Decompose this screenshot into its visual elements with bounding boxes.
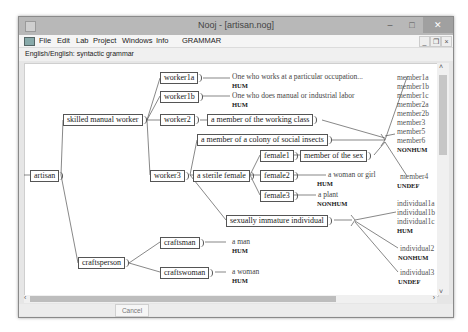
menu-bar: File Edit Lab Project Windows Info GRAMM… [19, 35, 453, 48]
tag-member4: UNDEF [397, 182, 419, 189]
leaf-member2a: member2a [397, 100, 429, 109]
node-working-class[interactable]: a member of the working class [207, 114, 313, 126]
bottom-bar: Cancel [19, 304, 453, 316]
menu-info[interactable]: Info [156, 36, 169, 45]
tag-craftswoman: HUM [232, 277, 248, 284]
maximize-button[interactable]: □ [401, 17, 423, 33]
node-female1[interactable]: female1 [260, 150, 294, 162]
tag-female2: HUM [317, 180, 333, 187]
scroll-up-icon[interactable]: ˄ [439, 63, 443, 70]
leaf-member6: member6 [397, 136, 425, 145]
leaf-member3: member3 [397, 118, 425, 127]
mdi-close-button[interactable]: × [441, 36, 452, 47]
menu-project[interactable]: Project [93, 36, 116, 45]
node-artisan[interactable]: artisan [30, 170, 59, 182]
gloss-worker1b: One who does manual or industrial labor [232, 91, 354, 100]
leaf-individual2: individual2 [400, 244, 434, 253]
leaf-individual3: individual3 [400, 268, 434, 277]
vertical-scrollbar[interactable]: ˄ ˅ [437, 63, 449, 295]
node-craftsperson[interactable]: craftsperson [78, 257, 125, 269]
node-sexually-immature[interactable]: sexually immature individual [226, 215, 328, 227]
leaf-member1b: member1b [397, 82, 429, 91]
leaf-member4: member4 [400, 172, 428, 181]
tag-worker1b: HUM [232, 101, 248, 108]
tag-individual3: UNDEF [398, 278, 420, 285]
title-bar[interactable]: Nooj - [artisan.nog] – □ ✕ [19, 17, 453, 35]
grammar-header: English/English: syntactic grammar [19, 48, 453, 61]
menu-lab[interactable]: Lab [76, 36, 89, 45]
node-member-of-sex[interactable]: member of the sex [300, 150, 367, 162]
node-worker1a[interactable]: worker1a [160, 72, 198, 84]
horizontal-scrollbar[interactable]: ‹ › [24, 295, 437, 303]
tag-member-group: NONHUM [397, 146, 427, 153]
node-skilled-manual-worker[interactable]: skilled manual worker [63, 114, 143, 126]
leaf-individual1b: individual1b [397, 208, 435, 217]
menu-edit[interactable]: Edit [57, 36, 70, 45]
grammar-label: English/English: syntactic grammar [25, 50, 134, 57]
leaf-member1c: member1c [397, 91, 429, 100]
scroll-right-icon[interactable]: › [433, 294, 435, 301]
node-sterile-female[interactable]: a sterile female [193, 170, 250, 182]
gloss-craftswoman: a woman [232, 267, 259, 276]
tag-individual-group: HUM [397, 227, 413, 234]
document-icon[interactable] [24, 37, 35, 46]
leaf-member2b: member2b [397, 109, 429, 118]
node-worker3[interactable]: worker3 [150, 170, 185, 182]
leaf-individual1c: individual1c [397, 217, 435, 226]
node-craftswoman[interactable]: craftswoman [160, 267, 209, 279]
horizontal-scroll-thumb[interactable] [30, 296, 336, 302]
mdi-restore-button[interactable]: ❐ [430, 36, 441, 47]
gloss-female2: a woman or girl [328, 170, 376, 179]
node-colony-member[interactable]: a member of a colony of social insects [197, 134, 328, 146]
node-worker2[interactable]: worker2 [160, 114, 195, 126]
gloss-female3: a plant [318, 190, 338, 199]
cancel-button[interactable]: Cancel [115, 304, 149, 317]
mdi-minimize-button[interactable]: _ [419, 36, 430, 47]
node-craftsman[interactable]: craftsman [160, 237, 200, 249]
tag-craftsman: HUM [232, 247, 248, 254]
gloss-worker1a: One who works at a particular occupation… [232, 72, 363, 81]
node-worker1b[interactable]: worker1b [160, 91, 199, 103]
minimize-button[interactable]: – [379, 17, 401, 33]
menu-file[interactable]: File [39, 36, 51, 45]
gloss-craftsman: a man [232, 237, 250, 246]
vertical-scroll-thumb[interactable] [439, 75, 447, 155]
leaf-member1a: member1a [397, 73, 429, 82]
tag-female3: NONHUM [317, 200, 347, 207]
tag-individual2: NONHUM [398, 254, 428, 261]
tag-worker1a: HUM [232, 82, 248, 89]
menu-grammar[interactable]: GRAMMAR [182, 36, 221, 45]
leaf-individual1a: individual1a [397, 199, 435, 208]
scroll-left-icon[interactable]: ‹ [24, 294, 26, 301]
node-female3[interactable]: female3 [260, 190, 294, 202]
node-female2[interactable]: female2 [260, 170, 294, 182]
close-button[interactable]: ✕ [423, 17, 453, 33]
scroll-down-icon[interactable]: ˅ [439, 288, 443, 295]
menu-windows[interactable]: Windows [122, 36, 152, 45]
leaf-member5: member5 [397, 127, 425, 136]
